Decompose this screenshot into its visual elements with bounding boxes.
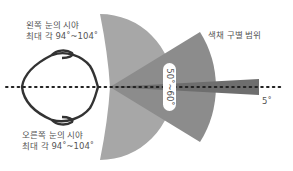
left-eye-label: 왼쪽 눈의 시야 최대 각 94˚~104˚ bbox=[26, 20, 98, 42]
right-eye-label-line2: 최대 각 94˚~104˚ bbox=[22, 141, 94, 152]
focus-angle-label: 5˚ bbox=[262, 96, 272, 107]
color-angle-text: 50˚~60˚ bbox=[165, 68, 175, 105]
left-eye-label-line1: 왼쪽 눈의 시야 bbox=[26, 20, 98, 31]
right-eye-label-line1: 오른쪽 눈의 시야 bbox=[22, 130, 94, 141]
right-eye-label: 오른쪽 눈의 시야 최대 각 94˚~104˚ bbox=[22, 130, 94, 152]
color-range-label: 색채 구별 범위 bbox=[208, 30, 261, 41]
color-angle-badge: 50˚~60˚ bbox=[163, 63, 176, 111]
visual-field-diagram: 왼쪽 눈의 시야 최대 각 94˚~104˚ 오른쪽 눈의 시야 최대 각 94… bbox=[0, 0, 293, 171]
left-eye-label-line2: 최대 각 94˚~104˚ bbox=[26, 31, 98, 42]
